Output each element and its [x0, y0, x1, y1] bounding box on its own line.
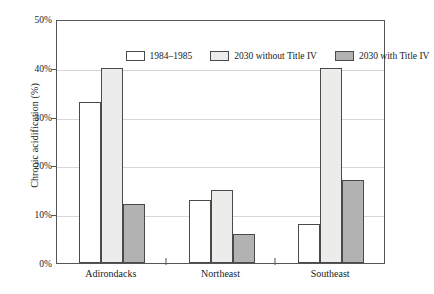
bar-southeast-series-0	[298, 224, 320, 263]
bar-adirondacks-series-1	[101, 68, 123, 263]
legend-swatch-icon	[126, 51, 145, 61]
bar-southeast-series-2	[342, 180, 364, 263]
legend-item-2: 2030 with Title IV	[335, 51, 429, 61]
legend: 1984–19852030 without Title IV2030 with …	[113, 41, 434, 71]
bar-southeast-series-1	[320, 68, 342, 263]
x-tick-mark	[165, 258, 166, 265]
legend-label: 1984–1985	[150, 51, 193, 61]
bar-northeast-series-0	[189, 200, 211, 263]
x-axis-labels: AdirondacksNortheastSoutheast	[56, 266, 385, 288]
x-tick-label-southeast: Southeast	[311, 268, 350, 279]
y-tick-label: 10%	[35, 210, 52, 220]
y-axis-ticks: 0%10%20%30%40%50%	[0, 20, 56, 264]
legend-swatch-icon	[335, 51, 354, 61]
bar-northeast-series-1	[211, 190, 233, 263]
y-tick-label: 30%	[35, 113, 52, 123]
legend-item-1: 2030 without Title IV	[210, 51, 317, 61]
y-tick-label: 20%	[35, 161, 52, 171]
x-tick-mark	[275, 258, 276, 265]
legend-item-0: 1984–1985	[126, 51, 193, 61]
y-tick-label: 0%	[39, 259, 52, 269]
legend-label: 2030 with Title IV	[359, 51, 429, 61]
bar-adirondacks-series-0	[79, 102, 101, 263]
bar-adirondacks-series-2	[123, 204, 145, 263]
plot-area: 1984–19852030 without Title IV2030 with …	[56, 20, 385, 264]
y-tick-label: 40%	[35, 64, 52, 74]
x-tick-label-northeast: Northeast	[201, 268, 240, 279]
legend-label: 2030 without Title IV	[234, 51, 317, 61]
legend-swatch-icon	[210, 51, 229, 61]
bar-northeast-series-2	[233, 234, 255, 263]
y-tick-label: 50%	[35, 15, 52, 25]
x-tick-label-adirondacks: Adirondacks	[85, 268, 136, 279]
